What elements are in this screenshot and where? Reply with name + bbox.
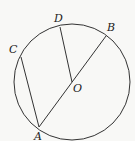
point-label-O: O: [73, 82, 82, 95]
geometry-diagram: A B C D O: [0, 0, 135, 141]
chord-AC: [21, 57, 39, 127]
point-label-B: B: [106, 21, 115, 34]
radius-OD: [60, 27, 72, 82]
point-label-A: A: [33, 130, 42, 141]
point-label-D: D: [53, 12, 63, 25]
point-label-C: C: [9, 43, 18, 56]
